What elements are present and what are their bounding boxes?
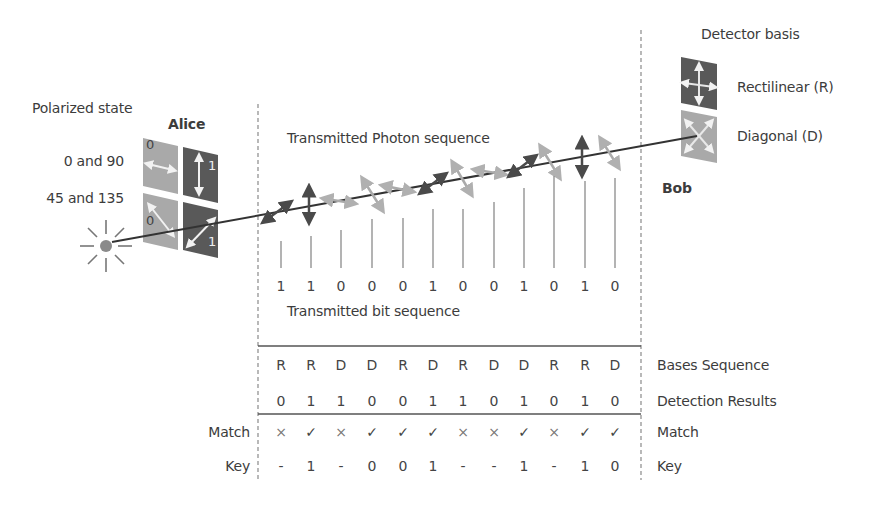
bit-cell: 0: [393, 278, 413, 294]
basis-cell: D: [484, 357, 504, 373]
detection-cell: 0: [362, 393, 382, 409]
basis-cell: R: [453, 357, 473, 373]
basis-cell: R: [544, 357, 564, 373]
basis-cell: D: [331, 357, 351, 373]
detection-cell: 1: [331, 393, 351, 409]
state-45-135-label: 45 and 135: [20, 190, 124, 206]
basis-cell: D: [514, 357, 534, 373]
detection-cell: 1: [575, 393, 595, 409]
match-cell: ×: [271, 424, 291, 440]
detection-results-label: Detection Results: [657, 393, 777, 409]
bases-sequence-label: Bases Sequence: [657, 357, 769, 373]
rectilinear-label: Rectilinear (R): [737, 79, 834, 95]
key-cell: -: [331, 458, 351, 474]
alice-bit-vertical: 1: [208, 158, 216, 173]
key-cell: 0: [605, 458, 625, 474]
key-cell: 1: [423, 458, 443, 474]
basis-cell: R: [271, 357, 291, 373]
match-cell: ×: [484, 424, 504, 440]
detection-cell: 1: [301, 393, 321, 409]
detection-cell: 1: [453, 393, 473, 409]
alice-polarizer: [143, 138, 218, 258]
state-0-90-label: 0 and 90: [40, 153, 124, 169]
match-cell: ✓: [423, 424, 443, 440]
match-cell: ✓: [393, 424, 413, 440]
basis-cell: D: [423, 357, 443, 373]
bit-cell: 0: [331, 278, 351, 294]
transmitted-bit-sequence-label: Transmitted bit sequence: [287, 303, 460, 319]
detection-cell: 0: [544, 393, 564, 409]
detection-cell: 0: [393, 393, 413, 409]
alice-bit-diag45: 1: [208, 234, 216, 249]
bit-cell: 0: [362, 278, 382, 294]
filter-diag45-panel: [183, 202, 218, 258]
key-cell: 1: [575, 458, 595, 474]
detection-cell: 0: [484, 393, 504, 409]
bob-label: Bob: [662, 180, 692, 196]
basis-cell: R: [301, 357, 321, 373]
polarized-state-label: Polarized state: [32, 100, 132, 116]
alice-bit-horizontal: 0: [146, 137, 154, 152]
detection-cell: 1: [514, 393, 534, 409]
detection-cell: 1: [423, 393, 443, 409]
detection-cell: 0: [271, 393, 291, 409]
detection-cell: 0: [605, 393, 625, 409]
bit-cell: 0: [484, 278, 504, 294]
key-cell: -: [484, 458, 504, 474]
bit-cell: 1: [514, 278, 534, 294]
alice-bit-diag135: 0: [146, 213, 154, 228]
basis-cell: R: [575, 357, 595, 373]
match-cell: ✓: [362, 424, 382, 440]
key-cell: -: [271, 458, 291, 474]
match-cell: ✓: [514, 424, 534, 440]
key-cell: 0: [362, 458, 382, 474]
key-left-label: Key: [150, 458, 250, 474]
key-cell: 1: [301, 458, 321, 474]
basis-cell: D: [605, 357, 625, 373]
match-cell: ×: [453, 424, 473, 440]
match-cell: ×: [331, 424, 351, 440]
bit-cell: 0: [453, 278, 473, 294]
bit-cell: 0: [605, 278, 625, 294]
match-cell: ✓: [301, 424, 321, 440]
bit-cell: 1: [575, 278, 595, 294]
bit-cell: 1: [423, 278, 443, 294]
match-right-label: Match: [657, 424, 699, 440]
bit-cell: 0: [544, 278, 564, 294]
match-cell: ✓: [605, 424, 625, 440]
basis-cell: R: [393, 357, 413, 373]
bob-detector: [681, 57, 717, 163]
basis-cell: D: [362, 357, 382, 373]
sun-burst-icon: [80, 220, 132, 272]
diagonal-label: Diagonal (D): [737, 128, 823, 144]
bit-bars: [281, 176, 615, 268]
detector-basis-label: Detector basis: [701, 26, 800, 42]
transmitted-photon-sequence-label: Transmitted Photon sequence: [287, 130, 490, 146]
bit-cell: 1: [271, 278, 291, 294]
match-cell: ✓: [575, 424, 595, 440]
bit-cell: 1: [301, 278, 321, 294]
match-cell: ×: [544, 424, 564, 440]
photon-sequence: [266, 141, 617, 220]
key-cell: 1: [514, 458, 534, 474]
key-right-label: Key: [657, 458, 682, 474]
key-cell: 0: [393, 458, 413, 474]
key-cell: -: [453, 458, 473, 474]
key-cell: -: [544, 458, 564, 474]
alice-label: Alice: [168, 116, 205, 132]
match-left-label: Match: [150, 424, 250, 440]
filter-vertical-panel: [183, 147, 218, 203]
